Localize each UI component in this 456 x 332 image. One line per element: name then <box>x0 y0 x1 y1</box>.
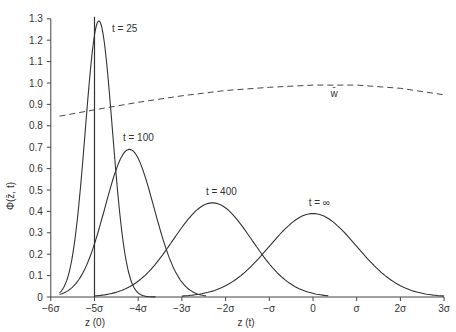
series-label-1: t = 100 <box>123 132 154 143</box>
y-tick-label: 0.3 <box>29 227 43 238</box>
y-tick-label: 1.2 <box>29 35 43 46</box>
x-tick-label: −6σ <box>42 303 60 314</box>
series-curve-0 <box>60 21 156 297</box>
x-tick-label: −σ <box>263 303 276 314</box>
y-tick-label: 0.2 <box>29 249 43 260</box>
x-tick-label: −5σ <box>86 303 104 314</box>
curves <box>60 21 445 297</box>
y-tick-label: 0.6 <box>29 163 43 174</box>
x-axis-secondary-label: z (0) <box>85 317 105 328</box>
y-tick-label: 1.3 <box>29 13 43 24</box>
y-tick-label: 0.4 <box>29 206 43 217</box>
y-tick-label: 0.8 <box>29 120 43 131</box>
series-label-3: t = ∞ <box>309 197 330 208</box>
series-label-4: w̄ <box>329 87 338 99</box>
series-label-2: t = 400 <box>206 186 237 197</box>
x-tick-label: −4σ <box>129 303 147 314</box>
y-tick-label: 0.7 <box>29 142 43 153</box>
x-tick-label: 2σ <box>395 303 408 314</box>
y-tick-label: 0 <box>37 292 43 303</box>
x-tick-label: 0 <box>310 303 316 314</box>
chart: −6σ−5σ−4σ−3σ−2σ−σ0σ2σ3σ00.10.20.30.40.50… <box>0 0 456 332</box>
series-curve-2 <box>95 203 329 296</box>
series-curve-4 <box>60 85 445 116</box>
x-axis-label: z (t) <box>237 317 254 328</box>
y-axis-label: Φ(z̄, t) <box>5 182 16 210</box>
y-tick-label: 1.0 <box>29 78 43 89</box>
x-tick-label: σ <box>354 303 361 314</box>
y-tick-label: 0.1 <box>29 270 43 281</box>
x-tick-label: −3σ <box>173 303 191 314</box>
axes: −6σ−5σ−4σ−3σ−2σ−σ0σ2σ3σ00.10.20.30.40.50… <box>29 13 451 314</box>
series-label-0: t = 25 <box>112 23 138 34</box>
x-tick-label: −2σ <box>217 303 235 314</box>
y-tick-label: 0.9 <box>29 99 43 110</box>
y-tick-label: 0.5 <box>29 185 43 196</box>
x-tick-label: 3σ <box>438 303 451 314</box>
series-curve-3 <box>182 214 444 297</box>
y-tick-label: 1.1 <box>29 56 43 67</box>
